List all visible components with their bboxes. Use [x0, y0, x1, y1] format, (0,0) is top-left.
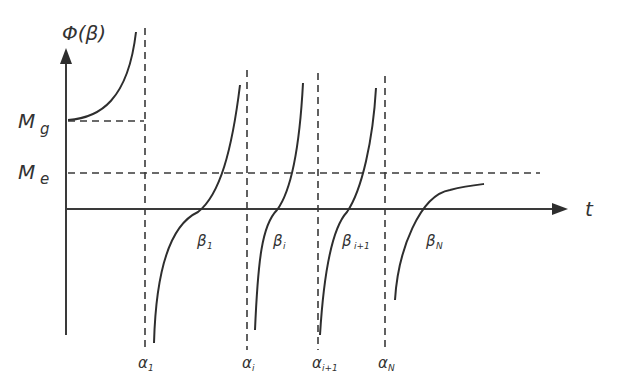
- x-axis-arrow-icon: [552, 203, 568, 215]
- svg-text:β: β: [425, 232, 436, 250]
- svg-text:M: M: [18, 160, 35, 184]
- pole-label-alpha-i1: α i+1: [312, 354, 338, 373]
- svg-text:β: β: [341, 232, 352, 250]
- svg-text:α: α: [312, 354, 322, 372]
- level-label-mg: M g: [18, 109, 50, 138]
- branch-2-curve: [255, 83, 303, 330]
- root-label-beta-1: β 1: [196, 232, 213, 251]
- root-label-beta-i: β i: [272, 232, 286, 251]
- pole-label-alpha-n: α N: [378, 354, 395, 373]
- svg-text:β: β: [196, 232, 207, 250]
- x-axis-label: t: [585, 197, 594, 221]
- secular-function-diagram: Φ(β) t M g M e β 1 β i β i+1 β N α 1: [0, 0, 622, 392]
- svg-text:e: e: [40, 170, 49, 188]
- svg-text:i: i: [283, 241, 286, 251]
- svg-text:M: M: [18, 109, 35, 133]
- svg-text:g: g: [40, 120, 50, 138]
- root-label-beta-n: β N: [425, 232, 443, 251]
- y-axis-label: Φ(β): [62, 21, 106, 45]
- svg-text:i+1: i+1: [354, 241, 370, 251]
- svg-text:N: N: [436, 241, 443, 251]
- svg-text:β: β: [272, 232, 283, 250]
- root-label-beta-i1: β i+1: [341, 232, 370, 251]
- branch-3-curve: [320, 88, 376, 335]
- y-axis-arrow-icon: [60, 48, 72, 64]
- svg-text:α: α: [138, 354, 148, 372]
- svg-text:α: α: [378, 354, 388, 372]
- svg-text:i+1: i+1: [322, 363, 338, 373]
- pole-label-alpha-i: α i: [242, 354, 255, 373]
- svg-text:1: 1: [148, 363, 154, 373]
- branch-0-curve: [68, 32, 136, 120]
- svg-text:i: i: [252, 363, 255, 373]
- svg-text:1: 1: [207, 241, 213, 251]
- svg-text:N: N: [388, 363, 395, 373]
- branch-1-curve: [154, 85, 240, 343]
- level-label-me: M e: [18, 160, 49, 188]
- pole-label-alpha-1: α 1: [138, 354, 154, 373]
- svg-text:α: α: [242, 354, 252, 372]
